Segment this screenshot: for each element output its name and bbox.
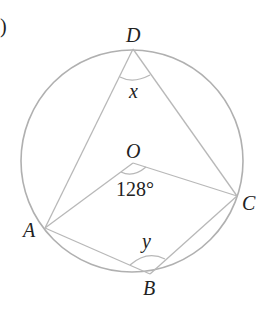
circle-theorem-diagram: ) D x O 128° C A y B — [0, 0, 267, 312]
label-x: x — [128, 80, 138, 102]
angle-arc-y — [130, 256, 165, 265]
corner-mark: ) — [0, 15, 7, 38]
chord-DA — [45, 49, 133, 228]
chord-DC — [133, 49, 237, 196]
angle-arc-center — [121, 167, 146, 174]
label-B: B — [143, 277, 155, 299]
label-D: D — [125, 24, 141, 46]
label-A: A — [21, 219, 36, 241]
label-angle-128: 128° — [116, 178, 154, 200]
label-O: O — [126, 140, 140, 162]
chord-BC — [150, 196, 237, 274]
label-y: y — [140, 230, 151, 253]
label-C: C — [242, 192, 256, 214]
